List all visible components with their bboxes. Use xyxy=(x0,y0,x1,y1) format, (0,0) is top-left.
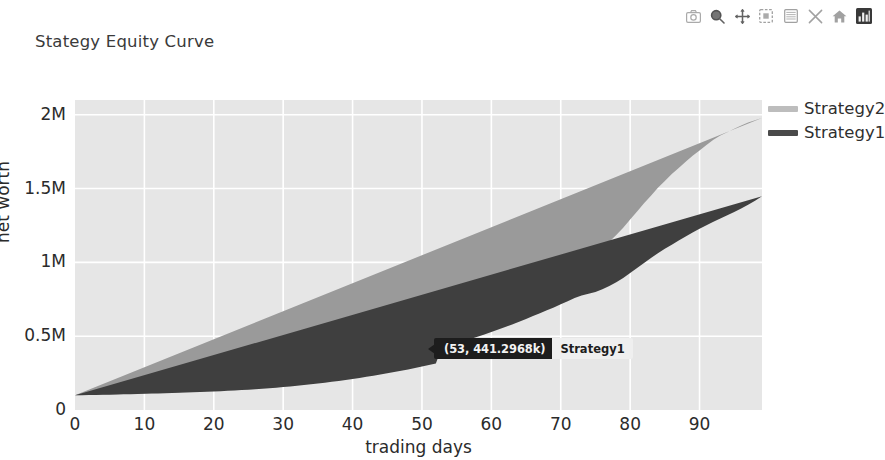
y-axis-tick: 0.5M xyxy=(0,325,66,345)
tooltip-coordinate: (53, 441.2968k) xyxy=(434,338,552,359)
data-point-tooltip: (53, 441.2968k) Strategy1 xyxy=(434,338,633,359)
x-axis-tick: 60 xyxy=(461,414,521,434)
y-axis-tick: 2M xyxy=(0,104,66,124)
legend-swatch-icon xyxy=(768,106,798,112)
legend-item-strategy2[interactable]: Strategy2 xyxy=(768,98,885,119)
x-axis-tick: 80 xyxy=(600,414,660,434)
y-axis-label: net worth xyxy=(0,161,13,243)
x-axis-tick: 10 xyxy=(114,414,174,434)
legend-swatch-icon xyxy=(768,130,798,136)
tooltip-series-name: Strategy1 xyxy=(552,338,632,359)
x-axis-tick: 40 xyxy=(323,414,383,434)
x-axis-tick: 90 xyxy=(670,414,730,434)
x-axis-tick: 0 xyxy=(45,414,105,434)
x-axis-label: trading days xyxy=(0,437,877,457)
plot-area[interactable] xyxy=(75,100,762,410)
x-axis-tick: 70 xyxy=(531,414,591,434)
x-axis-tick: 50 xyxy=(392,414,452,434)
chart-legend[interactable]: Strategy2Strategy1 xyxy=(768,98,885,143)
area-chart-canvas xyxy=(75,100,762,410)
x-axis-label-text: trading days xyxy=(365,437,472,457)
x-axis-tick: 20 xyxy=(184,414,244,434)
legend-item-strategy1[interactable]: Strategy1 xyxy=(768,122,885,143)
legend-item-label: Strategy2 xyxy=(804,99,885,118)
x-axis-tick: 30 xyxy=(253,414,313,434)
legend-item-label: Strategy1 xyxy=(804,123,885,142)
y-axis-tick: 1M xyxy=(0,251,66,271)
